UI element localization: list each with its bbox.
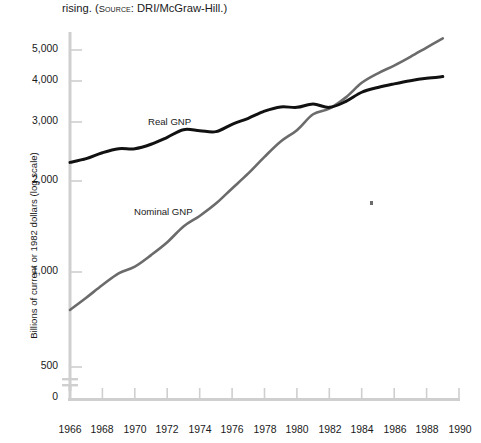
series-line-nominal-gnp (70, 38, 443, 310)
plot-area (0, 0, 481, 443)
y-axis-break-upper (62, 378, 78, 380)
y-tick-marks (71, 49, 82, 368)
y-axis-spine (69, 32, 72, 391)
series-line-real-gnp (70, 77, 443, 163)
x-axis-spine (68, 398, 460, 401)
x-tick-marks (69, 388, 460, 398)
figure: rising. (Source: DRI/McGraw-Hill.) Billi… (0, 0, 481, 443)
